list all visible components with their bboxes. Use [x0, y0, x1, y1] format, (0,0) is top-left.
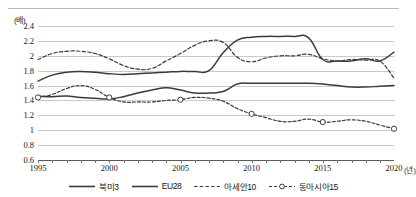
series-marker	[107, 95, 112, 100]
x-axis-unit-label: (년)	[404, 164, 416, 175]
y-axis-tick-label: 0.8	[23, 140, 34, 150]
x-axis-tick-label: 2020	[386, 163, 403, 173]
y-axis-tick-label: 2.4	[23, 21, 34, 31]
x-axis-tick-label: 2000	[101, 163, 118, 173]
series-marker	[391, 126, 396, 131]
x-axis-tick-labels: 199520002005201020152020	[0, 163, 394, 175]
y-axis-tick-label: 1	[30, 125, 34, 135]
series-line	[38, 83, 394, 99]
plot-wrapper: 2.42.221.81.61.41.210.80.6	[14, 26, 394, 160]
legend-item[interactable]: EU28	[132, 181, 182, 191]
series-marker	[35, 95, 40, 100]
chart-legend: 북미3EU28아세안10동아시아15	[0, 178, 407, 194]
legend-label: 아세안10	[224, 180, 255, 192]
y-axis-tick-labels: 2.42.221.81.61.41.210.80.6	[14, 26, 34, 160]
y-axis-tick-label: 1.8	[23, 66, 34, 76]
y-axis-tick-label: 2	[30, 51, 34, 61]
legend-swatch-icon	[194, 182, 220, 191]
x-axis-tick-label: 2010	[243, 163, 260, 173]
x-axis-tick-label: 2005	[172, 163, 189, 173]
plot-area	[38, 26, 394, 160]
legend-item[interactable]: 북미3	[69, 180, 119, 192]
series-lines	[38, 26, 394, 160]
y-axis-tick-label: 1.6	[23, 81, 34, 91]
series-line	[38, 35, 394, 81]
x-axis-tick-label: 1995	[30, 163, 47, 173]
legend-item[interactable]: 아세안10	[194, 180, 255, 192]
y-axis-tick-label: 1.2	[23, 110, 34, 120]
legend-label: 북미3	[99, 180, 119, 192]
y-axis-tick-label: 2.2	[23, 36, 34, 46]
series-marker	[249, 111, 254, 116]
legend-label: 동아시아15	[299, 180, 338, 192]
legend-swatch-icon	[132, 182, 158, 191]
series-line	[38, 86, 394, 129]
legend-item[interactable]: 동아시아15	[269, 180, 338, 192]
y-axis-tick-label: 1.4	[23, 95, 34, 105]
series-marker	[178, 97, 183, 102]
x-axis-tick-label: 2015	[314, 163, 331, 173]
series-marker	[320, 119, 325, 124]
legend-label: EU28	[162, 181, 182, 191]
legend-swatch-icon	[69, 182, 95, 191]
legend-swatch-icon	[269, 182, 295, 191]
top-divider	[8, 8, 399, 9]
